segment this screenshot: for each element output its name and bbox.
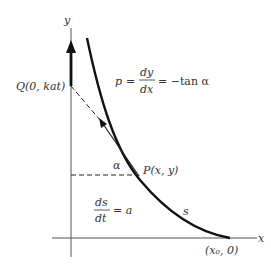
- pursuit-curve: [87, 38, 230, 238]
- x-axis-label: x: [258, 232, 265, 245]
- angle-alpha-label: α: [113, 159, 121, 172]
- slope-rhs: = −tan α: [158, 75, 209, 88]
- start-point-label: (x₀, 0): [205, 244, 238, 257]
- slope-equals: =: [126, 75, 135, 88]
- speed-equation: ds dt = a: [94, 196, 132, 225]
- tangent-solid: [103, 124, 139, 176]
- y-axis-label: y: [63, 14, 71, 27]
- arc-length-label: s: [183, 205, 189, 218]
- slope-numerator: dy: [140, 66, 154, 79]
- pursuer-arrowhead-icon: [99, 118, 107, 128]
- speed-denominator: dt: [95, 212, 107, 225]
- speed-numerator: ds: [95, 196, 108, 209]
- slope-denominator: dx: [140, 83, 154, 96]
- target-arrowhead-icon: [66, 40, 76, 53]
- point-q-label: Q(0, kat): [16, 80, 65, 93]
- pursuit-curve-diagram: y x Q(0, kat) P(x, y) (x₀, 0) α s p = dy…: [0, 0, 271, 271]
- tangent-dashed: [71, 86, 100, 120]
- slope-p: p: [115, 75, 122, 88]
- slope-equation: p = dy dx = −tan α: [115, 66, 209, 96]
- speed-rhs: = a: [113, 204, 132, 217]
- point-p-label: P(x, y): [142, 164, 178, 177]
